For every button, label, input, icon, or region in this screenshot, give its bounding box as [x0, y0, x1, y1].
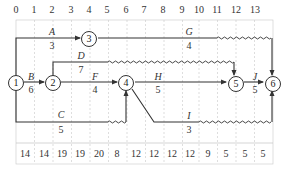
resource-value: 5 [254, 148, 272, 159]
scale-tick: 11 [209, 4, 225, 15]
activity-a-name: A [45, 26, 59, 37]
node-3: 3 [81, 31, 97, 47]
activity-b-name: B [24, 71, 38, 82]
node-2: 2 [45, 75, 61, 91]
activity-g-duration: 4 [182, 40, 196, 51]
activity-a-duration: 3 [45, 40, 59, 51]
scale-tick: 13 [247, 4, 263, 15]
scale-tick: 2 [44, 4, 60, 15]
scale-tick: 12 [228, 4, 244, 15]
scale-tick: 4 [81, 4, 97, 15]
activity-i-name: I [182, 110, 196, 121]
activity-b-duration: 6 [24, 84, 38, 95]
resource-value: 19 [53, 148, 71, 159]
node-4: 4 [118, 75, 134, 91]
resource-value: 5 [217, 148, 235, 159]
activity-c-name: C [54, 109, 68, 120]
node-5: 5 [228, 76, 244, 92]
resource-value: 12 [181, 148, 199, 159]
network-diagram: 0 1 2 3 4 5 6 7 8 9 10 11 12 13 14 14 19… [0, 0, 288, 173]
activity-f-name: F [88, 71, 102, 82]
scale-tick: 5 [99, 4, 115, 15]
activity-i-duration: 3 [182, 124, 196, 135]
resource-value: 20 [90, 148, 108, 159]
resource-value: 19 [71, 148, 89, 159]
resource-value: 12 [163, 148, 181, 159]
scale-tick: 7 [136, 4, 152, 15]
activity-c-duration: 5 [54, 124, 68, 135]
resource-value: 9 [199, 148, 217, 159]
activity-d-duration: 7 [74, 64, 88, 75]
scale-tick: 9 [174, 4, 190, 15]
activity-j-name: J [248, 71, 262, 82]
scale-tick: 6 [118, 4, 134, 15]
resource-value: 12 [145, 148, 163, 159]
node-1: 1 [8, 75, 24, 91]
resource-value: 14 [16, 148, 34, 159]
scale-tick: 10 [191, 4, 207, 15]
activity-g-name: G [182, 26, 196, 37]
scale-tick: 0 [8, 4, 24, 15]
node-6: 6 [265, 76, 281, 92]
activity-d-name: D [74, 50, 88, 61]
scale-tick: 8 [155, 4, 171, 15]
activity-h-duration: 5 [151, 84, 165, 95]
scale-tick: 3 [63, 4, 79, 15]
activity-j-duration: 5 [248, 84, 262, 95]
resource-value: 5 [236, 148, 254, 159]
resource-value: 12 [127, 148, 145, 159]
scale-tick: 1 [26, 4, 42, 15]
activity-f-duration: 4 [88, 84, 102, 95]
resource-value: 14 [35, 148, 53, 159]
activity-h-name: H [151, 71, 165, 82]
resource-value: 8 [108, 148, 126, 159]
